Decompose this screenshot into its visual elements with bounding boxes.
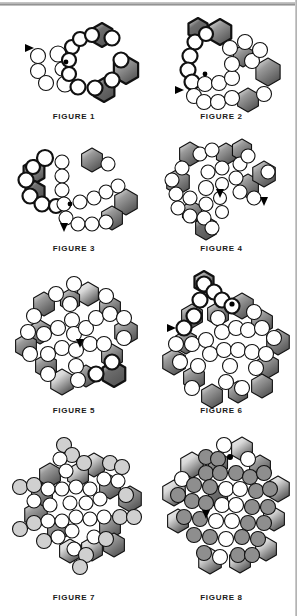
- bead-node: [99, 289, 114, 304]
- bead-node: [37, 534, 52, 549]
- figure-4-caption: FIGURE 4: [148, 244, 295, 253]
- bead-node: [245, 548, 260, 563]
- figure-3-drawing: [0, 142, 148, 242]
- bead-node: [111, 179, 125, 193]
- bead-node: [219, 375, 234, 390]
- direction-arrow: [260, 197, 268, 206]
- bead-node: [83, 337, 98, 352]
- bead-node: [177, 321, 192, 336]
- bead-node: [117, 331, 132, 346]
- bead-node: [99, 215, 113, 229]
- figure-5-drawing: [0, 270, 148, 404]
- figure-6-caption: FIGURE 6: [148, 406, 295, 415]
- bead-node: [215, 498, 230, 513]
- bead-node: [13, 480, 28, 495]
- bead-node: [241, 516, 256, 531]
- figure-1-canvas: [0, 14, 148, 110]
- bead-node: [41, 514, 55, 528]
- bead-node: [183, 209, 197, 223]
- bead-node: [127, 510, 142, 525]
- bead-node: [197, 95, 212, 110]
- bead-node: [27, 478, 42, 493]
- bead-node: [198, 77, 213, 92]
- bead-node: [93, 492, 107, 506]
- bead-node: [177, 510, 192, 525]
- figure-2: FIGURE 2: [148, 14, 295, 134]
- bead-node: [51, 321, 66, 336]
- bead-node: [35, 197, 50, 212]
- figure-3: FIGURE 3: [0, 142, 148, 262]
- bead-node: [63, 297, 78, 312]
- bead-node: [65, 524, 79, 538]
- figure-5-caption: FIGURE 5: [0, 406, 148, 415]
- bead-node: [267, 331, 282, 346]
- bead-node: [263, 482, 278, 497]
- figure-6-drawing: [148, 270, 295, 404]
- figure-2-caption: FIGURE 2: [148, 112, 295, 121]
- bead-node: [191, 359, 206, 374]
- bead-node: [203, 347, 218, 362]
- reference-dot: [64, 60, 69, 65]
- bead-node: [85, 28, 99, 42]
- bead-node: [215, 161, 229, 175]
- bead-node: [69, 480, 83, 494]
- bead-node: [255, 321, 270, 336]
- bead-node: [21, 325, 36, 340]
- bead-node: [211, 95, 226, 110]
- figure-1-drawing: [0, 14, 148, 110]
- bead-node: [216, 206, 229, 219]
- bead-node: [19, 173, 34, 188]
- bead-node: [257, 87, 272, 102]
- bead-node: [247, 305, 262, 320]
- bead-node: [62, 67, 76, 81]
- direction-arrow: [175, 86, 184, 94]
- bead-node: [79, 496, 93, 510]
- figure-1: FIGURE 1: [0, 14, 148, 134]
- bead-node: [171, 488, 186, 503]
- bead-node: [83, 512, 97, 526]
- hexagon-unit: [202, 384, 223, 408]
- bead-node: [199, 181, 214, 196]
- bead-node: [73, 560, 88, 575]
- bead-node: [69, 359, 84, 374]
- bead-node: [225, 91, 240, 106]
- bead-node: [217, 438, 232, 453]
- bead-node: [27, 309, 42, 324]
- bead-node: [213, 466, 228, 481]
- bead-node: [105, 355, 120, 370]
- bead-node: [217, 343, 232, 358]
- bead-node: [261, 165, 275, 179]
- bead-node: [169, 337, 184, 352]
- bead-node: [211, 311, 226, 326]
- bead-node: [199, 496, 214, 511]
- bead-node: [89, 311, 104, 326]
- figure-grid: FIGURE 1FIGURE 2FIGURE 3FIGURE 4FIGURE 5…: [0, 6, 295, 616]
- figure-5: FIGURE 5: [0, 270, 148, 425]
- bead-node: [259, 347, 274, 362]
- figure-8-drawing: [148, 433, 295, 588]
- bead-node: [201, 165, 215, 179]
- bead-node: [197, 546, 212, 561]
- bead-node: [225, 71, 240, 86]
- bead-node: [233, 482, 248, 497]
- bead-node: [216, 178, 229, 191]
- bead-node: [99, 532, 114, 547]
- bead-node: [261, 500, 276, 515]
- bead-node: [247, 191, 261, 205]
- bead-node: [41, 482, 55, 496]
- bead-node: [213, 550, 228, 565]
- bead-node: [51, 530, 65, 544]
- bead-node: [55, 482, 69, 496]
- bead-node: [27, 494, 41, 508]
- bead-node: [103, 307, 118, 322]
- bead-node: [205, 221, 219, 235]
- bead-node: [97, 472, 111, 486]
- bead-node: [241, 452, 256, 467]
- bead-node: [225, 514, 240, 529]
- figure-3-caption: FIGURE 3: [0, 244, 148, 253]
- bead-node: [71, 80, 86, 95]
- bead-node: [175, 161, 189, 175]
- bead-node: [117, 311, 132, 326]
- bead-node: [105, 73, 120, 88]
- bead-node: [113, 510, 128, 525]
